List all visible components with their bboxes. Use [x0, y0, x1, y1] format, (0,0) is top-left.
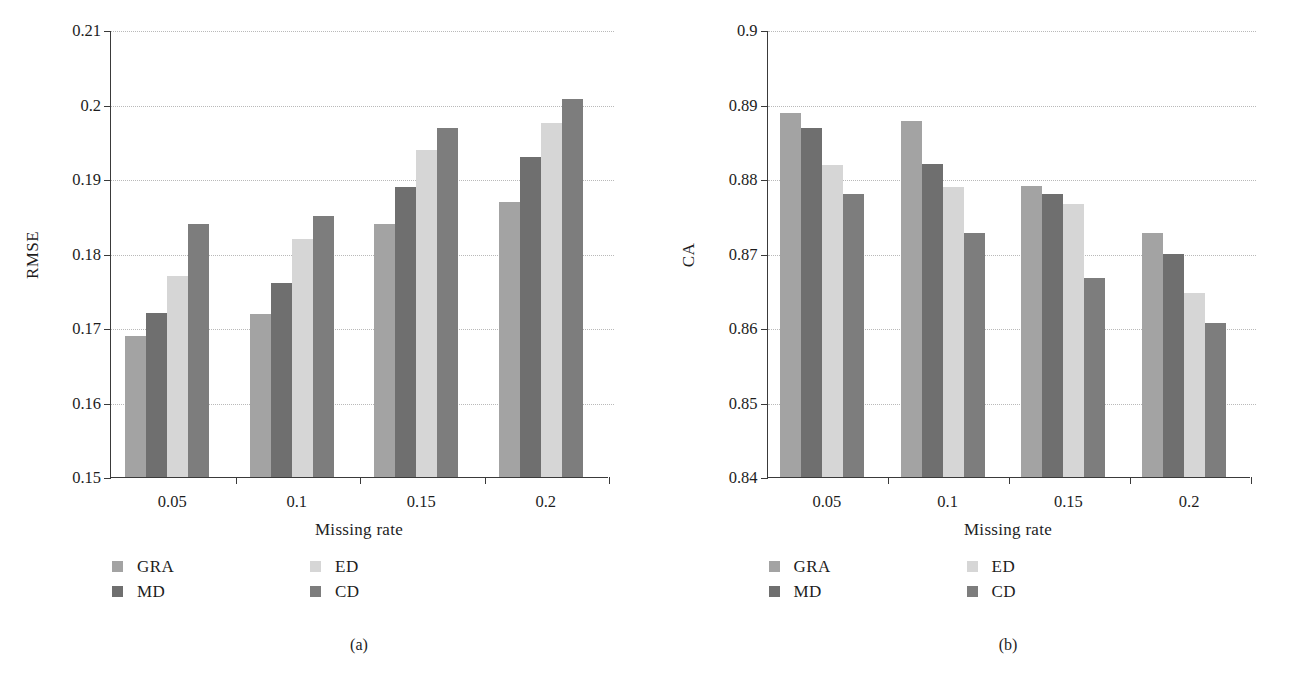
legend-swatch-icon [112, 561, 123, 572]
x-tick-mark [888, 477, 889, 484]
bar-group [125, 31, 209, 477]
bar-ed [416, 150, 437, 477]
bar-ed [292, 239, 313, 477]
bar-group [250, 31, 334, 477]
x-axis-title-b: Missing rate [964, 520, 1052, 540]
bar-cd [313, 216, 334, 477]
x-tick-mark [1130, 477, 1131, 484]
legend-label: MD [137, 583, 165, 600]
plot-b: CA 0.840.850.860.870.880.890.9 0.050.10.… [657, 0, 1313, 530]
bar-gra [1021, 186, 1042, 477]
x-tick-label: 0.1 [286, 492, 307, 512]
bar-md [1163, 254, 1184, 477]
bar-cd [1205, 323, 1226, 477]
legend-swatch-icon [310, 561, 321, 572]
legend-item-md: MD [769, 583, 831, 600]
bar-ed [1184, 293, 1205, 477]
subfigure-caption-b: (b) [999, 636, 1018, 654]
y-tick-mark [104, 404, 111, 405]
y-tick-mark [104, 31, 111, 32]
bar-gra [780, 113, 801, 477]
bar-gra [901, 121, 922, 477]
bar-gra [250, 314, 271, 477]
y-tick-mark [104, 478, 111, 479]
legend-swatch-icon [769, 586, 780, 597]
x-tick-label: 0.05 [158, 492, 187, 512]
y-axis-ticks-b: 0.840.850.860.870.880.890.9 [657, 31, 767, 478]
bar-gra [125, 336, 146, 477]
legend-item-gra: GRA [769, 558, 831, 575]
bar-md [922, 164, 943, 477]
figure-container: RMSE 0.150.160.170.180.190.20.21 0.050.1… [0, 0, 1313, 686]
bar-cd [437, 128, 458, 477]
legend-label: CD [335, 583, 359, 600]
legend-label: MD [794, 583, 822, 600]
legend-item-ed: ED [310, 558, 359, 575]
legend-label: CD [992, 583, 1016, 600]
bar-cd [964, 233, 985, 477]
bar-ed [822, 165, 843, 477]
legend-swatch-icon [310, 586, 321, 597]
bar-md [801, 128, 822, 477]
y-tick-mark [761, 404, 768, 405]
y-tick-mark [761, 255, 768, 256]
panel-b: CA 0.840.850.860.870.880.890.9 0.050.10.… [657, 0, 1313, 686]
x-tick-label: 0.15 [1054, 492, 1083, 512]
bar-ed [167, 276, 188, 477]
bar-group [901, 31, 985, 477]
bar-cd [188, 224, 209, 477]
y-tick-mark [104, 106, 111, 107]
legend-swatch-icon [769, 561, 780, 572]
plot-area-b [767, 31, 1250, 478]
legend-swatch-icon [112, 586, 123, 597]
bar-group [1021, 31, 1105, 477]
legend-label: GRA [137, 558, 174, 575]
bar-ed [1063, 204, 1084, 477]
panel-a: RMSE 0.150.160.170.180.190.20.21 0.050.1… [0, 0, 657, 686]
bar-cd [562, 99, 583, 477]
x-tick-mark [609, 477, 610, 484]
x-axis-title-a: Missing rate [315, 520, 403, 540]
bar-cd [1084, 278, 1105, 477]
legend-item-cd: CD [967, 583, 1016, 600]
bar-md [1042, 194, 1063, 477]
legend-item-ed: ED [967, 558, 1016, 575]
bar-cd [843, 194, 864, 477]
legend-swatch-icon [967, 586, 978, 597]
bar-md [271, 283, 292, 477]
x-tick-mark [236, 477, 237, 484]
y-tick-mark [761, 329, 768, 330]
bar-md [520, 157, 541, 477]
x-tick-label: 0.2 [1179, 492, 1200, 512]
x-tick-label: 0.1 [937, 492, 958, 512]
legend-label: ED [335, 558, 358, 575]
x-tick-label: 0.05 [812, 492, 841, 512]
plot-a: RMSE 0.150.160.170.180.190.20.21 0.050.1… [0, 0, 657, 530]
y-tick-mark [104, 255, 111, 256]
x-tick-label: 0.2 [535, 492, 556, 512]
bar-gra [1142, 233, 1163, 477]
bar-gra [499, 202, 520, 477]
x-tick-mark [485, 477, 486, 484]
legend-swatch-icon [967, 561, 978, 572]
y-tick-mark [761, 31, 768, 32]
bar-md [395, 187, 416, 477]
bar-md [146, 313, 167, 477]
bar-ed [943, 187, 964, 477]
x-tick-label: 0.15 [407, 492, 436, 512]
legend-item-cd: CD [310, 583, 359, 600]
x-tick-mark [1009, 477, 1010, 484]
bar-gra [374, 224, 395, 477]
y-tick-mark [761, 106, 768, 107]
plot-area-a [110, 31, 608, 478]
x-tick-mark [1251, 477, 1252, 484]
x-tick-mark [360, 477, 361, 484]
y-axis-ticks-a: 0.150.160.170.180.190.20.21 [0, 31, 110, 478]
y-tick-mark [104, 180, 111, 181]
legend-b: GRAEDMDCD [769, 558, 1017, 600]
bar-group [1142, 31, 1226, 477]
subfigure-caption-a: (a) [350, 636, 368, 654]
y-tick-mark [104, 329, 111, 330]
bar-group [780, 31, 864, 477]
legend-label: GRA [794, 558, 831, 575]
